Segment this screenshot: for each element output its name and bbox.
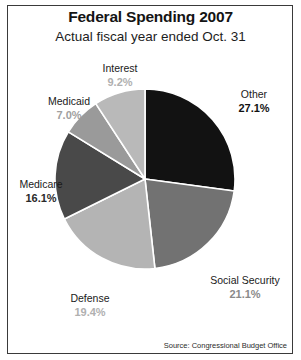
slice-label-social-security-value: 21.1% bbox=[201, 288, 289, 301]
slice-label-other-name: Other bbox=[221, 88, 287, 101]
slice-label-interest-name: Interest bbox=[84, 62, 156, 75]
pie-slice-social-security bbox=[145, 179, 234, 268]
slice-label-medicare: Medicare 16.1% bbox=[6, 178, 76, 205]
slice-label-defense-name: Defense bbox=[54, 292, 126, 305]
slice-label-interest-value: 9.2% bbox=[84, 76, 156, 89]
slice-label-medicaid-name: Medicaid bbox=[33, 95, 105, 108]
slice-label-other: Other 27.1% bbox=[221, 88, 287, 115]
title-block: Federal Spending 2007 Actual fiscal year… bbox=[0, 8, 301, 46]
page-title: Federal Spending 2007 bbox=[0, 8, 301, 26]
slice-label-defense-value: 19.4% bbox=[54, 306, 126, 319]
slice-label-defense: Defense 19.4% bbox=[54, 292, 126, 319]
slice-label-medicaid: Medicaid 7.0% bbox=[33, 95, 105, 122]
slice-label-interest: Interest 9.2% bbox=[84, 62, 156, 89]
chart-subtitle: Actual fiscal year ended Oct. 31 bbox=[0, 28, 301, 46]
slice-label-social-security: Social Security 21.1% bbox=[201, 274, 289, 301]
slice-label-social-security-name: Social Security bbox=[201, 274, 289, 287]
slice-label-medicaid-value: 7.0% bbox=[33, 109, 105, 122]
slice-label-medicare-value: 16.1% bbox=[6, 192, 76, 205]
slice-label-medicare-name: Medicare bbox=[6, 178, 76, 191]
slice-label-other-value: 27.1% bbox=[221, 102, 287, 115]
source-note: Source: Congressional Budget Office bbox=[164, 341, 287, 350]
pie-chart-figure: Federal Spending 2007 Actual fiscal year… bbox=[0, 0, 301, 360]
